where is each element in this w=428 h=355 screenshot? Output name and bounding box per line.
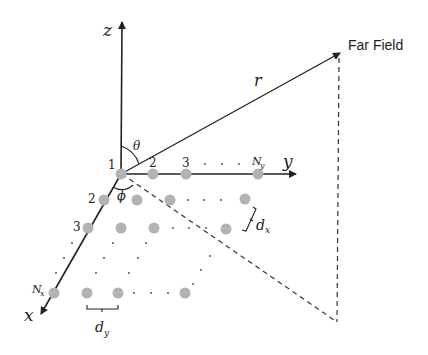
array-element (116, 223, 127, 234)
array-element (221, 224, 232, 235)
array-element (149, 223, 160, 234)
array-element (181, 169, 192, 180)
dx-label: d (256, 217, 265, 233)
array-element (113, 288, 124, 299)
dx-bracket (242, 207, 256, 231)
array-element (99, 195, 110, 206)
array-element (49, 288, 60, 299)
index-y-3: 3 (182, 156, 190, 170)
array-row-3 (83, 223, 232, 235)
index-y-2: 2 (149, 156, 157, 170)
theta-label: θ (133, 139, 141, 153)
range-label: r (254, 71, 263, 90)
array-element (82, 288, 93, 299)
array-element (132, 195, 143, 206)
far-field-label: Far Field (348, 37, 403, 53)
array-element (148, 169, 159, 180)
array-row-Nx (49, 288, 191, 299)
array-element (116, 169, 127, 180)
array-element (83, 223, 94, 234)
array-element (240, 194, 251, 205)
row-3-ellipsis (172, 227, 207, 229)
dy-label-sub: y (103, 328, 110, 338)
index-y-1: 1 (108, 158, 116, 172)
dy-label: d (95, 319, 104, 335)
row-2-ellipsis (187, 199, 222, 201)
row-1-ellipsis (204, 163, 240, 165)
array-diagram: z y x r Far Field θ ϕ 1 2 3 N y 2 (0, 0, 428, 355)
z-axis-label: z (102, 20, 113, 40)
dy-bracket (87, 305, 118, 312)
x-axis-label: x (24, 305, 34, 325)
index-y-N-sub: y (259, 161, 265, 170)
dx-label-sub: x (265, 225, 270, 235)
z-axis (121, 22, 122, 174)
index-x-2: 2 (88, 192, 96, 206)
index-x-N-sub: x (40, 289, 45, 298)
far-field-projection (122, 58, 339, 322)
array-element (165, 195, 176, 206)
index-x-3: 3 (73, 220, 81, 234)
phi-label: ϕ (117, 188, 126, 203)
array-element (180, 288, 191, 299)
row-Nx-ellipsis (133, 292, 169, 294)
y-axis-label: y (282, 151, 293, 171)
array-element (253, 169, 264, 180)
